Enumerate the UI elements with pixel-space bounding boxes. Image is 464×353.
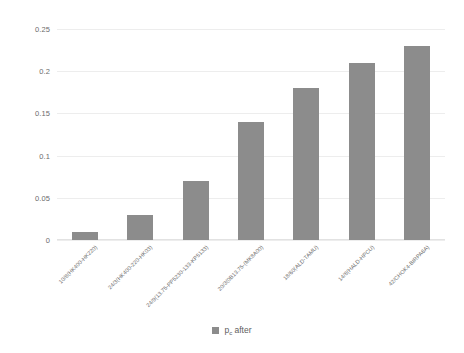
y-axis-tick-label: 0.1 — [39, 151, 57, 160]
bar[interactable] — [72, 232, 98, 240]
bar[interactable] — [404, 46, 430, 240]
legend-swatch-icon — [212, 327, 219, 334]
x-axis-tick-label: 24/9(13.75-PP5230-133-KP5133) — [145, 244, 209, 308]
x-axis-tick-label: 24/3(HK400-220-HK03) — [107, 244, 154, 291]
bar-slot — [279, 29, 334, 240]
x-axis-tick-label: 18/60(ALD-TAMU) — [282, 244, 319, 281]
x-axis-tick-label: 42/CHOK4-BIRPA6A) — [388, 244, 431, 287]
y-axis-tick-label: 0.25 — [35, 25, 57, 34]
x-axis-tick-label: 10/8(HK400-HK220) — [57, 244, 98, 285]
bar-slot — [223, 29, 278, 240]
bar[interactable] — [349, 63, 375, 240]
bar-slot — [57, 29, 112, 240]
legend-suffix: after — [232, 325, 251, 335]
y-axis-tick-label: 0 — [46, 236, 57, 245]
y-axis-tick-label: 0.05 — [35, 193, 57, 202]
x-axis-tick-label: 14/8(HALD-HPCU) — [337, 244, 375, 282]
bar[interactable] — [127, 215, 153, 240]
y-axis-tick-label: 0.15 — [35, 109, 57, 118]
legend-subscript: c — [229, 330, 232, 336]
legend-label: pc after — [224, 325, 251, 335]
bar-slot — [112, 29, 167, 240]
x-axis-labels: 10/8(HK400-HK220)24/3(HK400-220-HK03)24/… — [57, 242, 445, 314]
bar-chart: 00.050.10.150.20.25 10/8(HK400-HK220)24/… — [0, 0, 464, 353]
gridline — [57, 240, 445, 241]
bar[interactable] — [293, 88, 319, 240]
bar[interactable] — [238, 122, 264, 240]
bar-slot — [334, 29, 389, 240]
y-axis-tick-label: 0.2 — [39, 67, 57, 76]
bar-series — [57, 29, 445, 240]
chart-legend: pc after — [0, 325, 464, 335]
bar[interactable] — [183, 181, 209, 240]
x-axis-tick-label: 20/3(0B13.75-(MK8A00) — [216, 244, 264, 292]
bar-slot — [390, 29, 445, 240]
bar-slot — [168, 29, 223, 240]
plot-area: 00.050.10.150.20.25 — [57, 29, 445, 240]
